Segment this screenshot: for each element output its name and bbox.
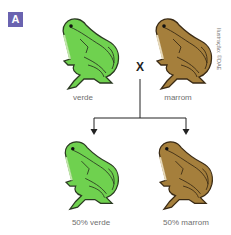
arrow-down-icon (91, 129, 98, 135)
arrow-down-icon (183, 129, 190, 135)
offspring-green-frog-icon (62, 140, 122, 212)
offspring-label-green: 50% verde (56, 218, 126, 227)
offspring-brown-frog-icon (156, 140, 216, 212)
offspring-label-brown: 50% marrom (151, 218, 221, 227)
